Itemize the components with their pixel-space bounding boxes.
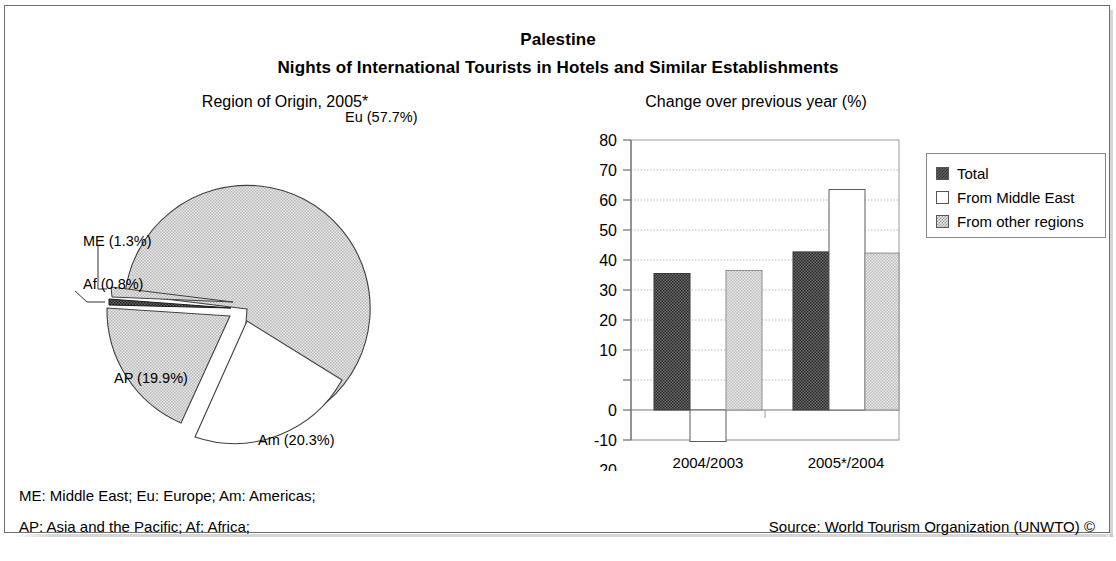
legend-label-other-regions: From other regions: [957, 214, 1084, 229]
bar-2004-middle-east: [690, 410, 726, 442]
y-tick-60: 60: [599, 192, 617, 209]
y-tick-20: 20: [599, 312, 617, 329]
y-tick-labels: 80 70 60 50 40 30 20 10 0 -10: [594, 132, 617, 449]
pie-label-eu: Eu (57.7%): [345, 109, 418, 125]
bar-chart: 80 70 60 50 40 30 20 10 0 -10 -20: [579, 116, 929, 471]
source-credit: Source: World Tourism Organization (UNWT…: [769, 518, 1095, 535]
chart-card: Palestine Nights of International Touris…: [4, 5, 1110, 533]
pie-label-af: Af (0.8%): [83, 276, 143, 292]
bar-2004-total: [654, 274, 690, 411]
pie-label-me: ME (1.3%): [83, 233, 152, 249]
legend-swatch-middle-east: [936, 191, 949, 204]
legend-label-total: Total: [957, 166, 989, 181]
y-tick-0: 0: [608, 402, 617, 419]
y-tick-labels-lower: -20: [594, 462, 617, 471]
y-tick-neg10: -10: [594, 432, 617, 449]
legend-item-other-regions[interactable]: From other regions: [936, 209, 1096, 233]
y-tick-10: 10: [599, 342, 617, 359]
legend-item-total[interactable]: Total: [936, 161, 1096, 185]
legend-label-middle-east: From Middle East: [957, 190, 1075, 205]
bar-2005-total: [793, 252, 829, 410]
x-tick-2004-2003: 2004/2003: [673, 454, 744, 471]
y-tick-30: 30: [599, 282, 617, 299]
legend-item-middle-east[interactable]: From Middle East: [936, 185, 1096, 209]
y-tick-70: 70: [599, 162, 617, 179]
page-title-main: Nights of International Tourists in Hote…: [5, 58, 1111, 78]
card-shadow-right: [1110, 10, 1113, 537]
footnote-abbreviations-line2: AP: Asia and the Pacific; Af: Africa;: [19, 518, 250, 535]
bar-2004-other-regions: [726, 271, 762, 411]
y-tick-40: 40: [599, 252, 617, 269]
leader-line-af: [75, 291, 105, 302]
page-title-country: Palestine: [5, 30, 1111, 50]
footnote-abbreviations-line1: ME: Middle East; Eu: Europe; Am: America…: [19, 487, 316, 504]
y-tick-50: 50: [599, 222, 617, 239]
y-tick-80: 80: [599, 132, 617, 149]
pie-chart: Eu (57.7%) Am (20.3%) AP (19.9%) Af (0.8…: [15, 116, 485, 466]
y-tick-neg20: -20: [594, 462, 617, 471]
bar-2005-middle-east: [829, 190, 865, 411]
pie-label-am: Am (20.3%): [258, 432, 335, 448]
pie-label-ap: AP (19.9%): [114, 370, 188, 386]
bar-panel-title: Change over previous year (%): [591, 93, 921, 111]
x-tick-2005-2004: 2005*/2004: [808, 454, 885, 471]
legend-swatch-other-regions: [936, 215, 949, 228]
card-shadow-bottom: [10, 534, 1116, 537]
bar-2005-other-regions: [865, 253, 899, 410]
bar-chart-svg: 80 70 60 50 40 30 20 10 0 -10 -20: [579, 116, 929, 471]
legend-swatch-total: [936, 167, 949, 180]
y-axis-ticks: [623, 140, 631, 440]
bar-chart-legend: Total From Middle East From other region…: [926, 153, 1106, 238]
